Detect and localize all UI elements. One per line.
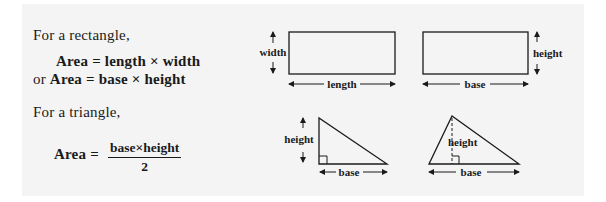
height-label: height	[448, 136, 478, 148]
oblique-triangle-diagram: height base	[429, 116, 519, 178]
base-label: base	[465, 78, 486, 90]
right-triangle-diagram: height base	[284, 118, 387, 178]
length-label: length	[327, 78, 356, 90]
height-label: height	[284, 133, 314, 145]
rectangle-diagram-length-width: width length	[260, 32, 395, 90]
height-label: height	[533, 47, 563, 59]
rectangle-diagram-base-height: height base	[423, 32, 563, 90]
base-label: base	[461, 166, 482, 178]
width-label: width	[260, 46, 287, 58]
geometry-diagrams: width length height base height base hei…	[0, 0, 606, 202]
base-label: base	[339, 166, 360, 178]
